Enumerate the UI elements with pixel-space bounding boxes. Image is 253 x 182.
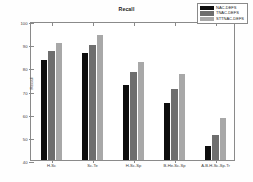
legend-color-swatch [200,6,214,10]
x-tick-label: B-He-Sc-Sp [164,163,186,168]
bar-group [205,23,226,160]
y-tick-mark-inner [31,139,34,140]
bar [123,85,129,160]
bar [138,62,144,160]
bar [212,135,218,160]
x-tick-label: H-Sc-Sp [126,163,141,168]
legend-item: STTNAC-DEFS [200,17,245,21]
y-tick-label: 70 [23,90,28,95]
bar-group [82,23,103,160]
bar [164,103,170,160]
bar [41,60,47,160]
plot-area: Recall 405060708090100 H-ScSc-TeH-Sc-SpB… [30,22,235,161]
y-tick-label: 40 [23,160,28,165]
y-tick-label: 50 [23,136,28,141]
y-tick-mark-inner [31,23,34,24]
y-tick-mark-inner [31,162,34,163]
bar-group [41,23,62,160]
recall-bar-chart-figure: Recall Recall 405060708090100 H-ScSc-TeH… [0,0,253,182]
legend-label: STTNAC-DEFS [216,17,244,21]
bar [56,43,62,160]
bar [171,89,177,160]
legend-label: TNAC-DEFS [216,11,239,15]
chart-legend: NAC-DEFSTNAC-DEFSSTTNAC-DEFS [197,3,249,24]
legend-color-swatch [200,17,214,21]
y-tick-label: 80 [23,67,28,72]
bar [89,45,95,160]
y-tick-label: 60 [23,113,28,118]
y-tick-mark-inner [31,69,34,70]
bar [130,72,136,160]
bar-group [164,23,185,160]
bar [205,146,211,160]
x-tick-label: H-Sc [47,163,56,168]
bar [97,35,103,160]
legend-color-swatch [200,11,214,15]
y-tick-label: 100 [21,21,28,26]
x-tick-label: Sc-Te [87,163,97,168]
bar [82,53,88,160]
y-tick-label: 90 [23,44,28,49]
bar-group [123,23,144,160]
y-tick-mark-inner [31,46,34,47]
bar [220,118,226,160]
y-tick-mark-inner [31,116,34,117]
legend-item: TNAC-DEFS [200,11,245,15]
x-tick-label: A-B-H-Sc-Sp-Tr [201,163,230,168]
y-tick-mark-inner [31,93,34,94]
bar [179,74,185,160]
bar [48,51,54,160]
